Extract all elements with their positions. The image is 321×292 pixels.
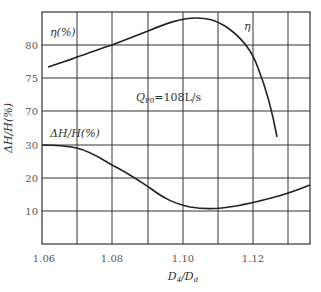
y-tick-75: 75 [25,73,38,84]
dh-axis-label: ΔH/H(%) [49,127,100,140]
chart: 80 75 70 30 20 10 1.06 1.08 1.10 1.12 D4… [0,0,321,292]
eta-axis-label: η(%) [50,26,76,39]
y-tick-10: 10 [25,206,38,217]
y-axis-title: ΔH/H(%) [2,103,15,154]
x-tick-1.12: 1.12 [242,253,264,264]
eta-curve-label: η [244,20,251,33]
x-axis-title: D4/Dd [167,270,199,284]
y-tick-80: 80 [25,40,38,51]
flow-annotation: QP0=108L/s [136,91,201,105]
x-tick-1.10: 1.10 [172,253,194,264]
y-tick-30: 30 [25,140,38,151]
x-tick-1.08: 1.08 [101,253,123,264]
y-tick-20: 20 [25,173,38,184]
y-tick-70: 70 [25,106,38,117]
x-tick-1.06: 1.06 [33,253,55,264]
dh-curve [42,145,310,209]
